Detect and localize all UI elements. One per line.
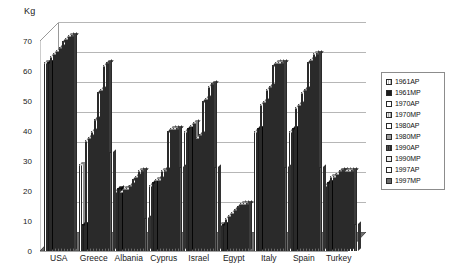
legend-item-label: 1990AP: [395, 144, 419, 151]
chart-screenshot: Kg 010203040506070 USAGreeceAlbaniaCypru…: [0, 0, 452, 280]
legend-item[interactable]: 1980MP: [386, 131, 441, 142]
bar-side-face: [218, 165, 221, 251]
chart-legend: 1961AP1961MP1970AP1970MP1980AP1980MP1990…: [381, 72, 445, 190]
legend-swatch-icon: [386, 167, 392, 173]
legend-item[interactable]: 1997AP: [386, 164, 441, 175]
y-axis-tick-labels: 010203040506070: [8, 22, 32, 251]
legend-swatch-icon: [386, 112, 392, 118]
y-axis-tick: 20: [10, 187, 32, 196]
bar: [106, 62, 109, 251]
legend-item-label: 1980AP: [395, 122, 419, 129]
y-axis-tick: 0: [10, 247, 32, 256]
bar-series-layer: [40, 22, 366, 251]
legend-item-label: 1980MP: [395, 133, 420, 140]
legend-swatch-icon: [386, 156, 392, 162]
bar: [354, 224, 357, 251]
legend-item[interactable]: 1997MP: [386, 175, 441, 186]
x-axis-tick: Greece: [80, 253, 108, 263]
plot-area: [40, 22, 366, 250]
y-axis-tick: 70: [10, 37, 32, 46]
legend-item-label: 1990MP: [395, 155, 420, 162]
bar-side-face: [288, 165, 291, 251]
x-axis-tick: Spain: [293, 253, 315, 263]
bar: [351, 170, 354, 251]
x-axis-tick: Egypt: [223, 253, 245, 263]
bar: [316, 53, 319, 251]
legend-swatch-icon: [386, 79, 392, 85]
bar: [141, 170, 144, 251]
bar: [284, 167, 287, 251]
bar: [281, 62, 284, 251]
bar: [319, 167, 322, 251]
bar: [144, 218, 147, 251]
legend-item[interactable]: 1990MP: [386, 153, 441, 164]
legend-item[interactable]: 1990AP: [386, 142, 441, 153]
y-axis-tick: 60: [10, 67, 32, 76]
y-axis-title: Kg: [24, 6, 35, 16]
legend-swatch-icon: [386, 123, 392, 129]
y-axis-tick: 50: [10, 97, 32, 106]
bar-side-face: [323, 165, 326, 251]
legend-item-label: 1970MP: [395, 111, 420, 118]
bar: [109, 152, 112, 251]
legend-swatch-icon: [386, 178, 392, 184]
bar: [211, 83, 214, 251]
bar-side-face: [183, 165, 186, 251]
y-axis-tick: 10: [10, 217, 32, 226]
bar: [246, 203, 249, 251]
x-axis-tick: Turkey: [326, 253, 352, 263]
legend-item[interactable]: 1961AP: [386, 76, 441, 87]
bar-side-face: [249, 201, 252, 251]
bar-side-face: [74, 33, 77, 251]
legend-item-label: 1970AP: [395, 100, 419, 107]
bar: [214, 167, 217, 251]
bar: [176, 128, 179, 251]
legend-item[interactable]: 1980AP: [386, 120, 441, 131]
bar: [71, 35, 74, 251]
legend-swatch-icon: [386, 101, 392, 107]
legend-item-label: 1997AP: [395, 166, 419, 173]
bar-side-face: [113, 150, 116, 251]
legend-item[interactable]: 1970MP: [386, 109, 441, 120]
x-axis-tick: Cyprus: [150, 253, 177, 263]
x-axis-tick: Italy: [261, 253, 277, 263]
legend-swatch-icon: [386, 90, 392, 96]
bar: [179, 167, 182, 251]
legend-item-label: 1961MP: [395, 89, 420, 96]
x-axis-tick: Albania: [115, 253, 143, 263]
bar-side-face: [148, 216, 151, 251]
legend-swatch-icon: [386, 145, 392, 151]
legend-item[interactable]: 1970AP: [386, 98, 441, 109]
x-axis-tick: USA: [50, 253, 67, 263]
bar-side-face: [358, 222, 361, 251]
legend-item[interactable]: 1961MP: [386, 87, 441, 98]
x-axis-tick: Israel: [188, 253, 209, 263]
legend-swatch-icon: [386, 134, 392, 140]
legend-item-label: 1997MP: [395, 177, 420, 184]
legend-item-label: 1961AP: [395, 78, 419, 85]
y-axis-tick: 40: [10, 127, 32, 136]
y-axis-tick: 30: [10, 157, 32, 166]
x-axis-tick-labels: USAGreeceAlbaniaCyprusIsraelEgyptItalySp…: [40, 253, 380, 269]
